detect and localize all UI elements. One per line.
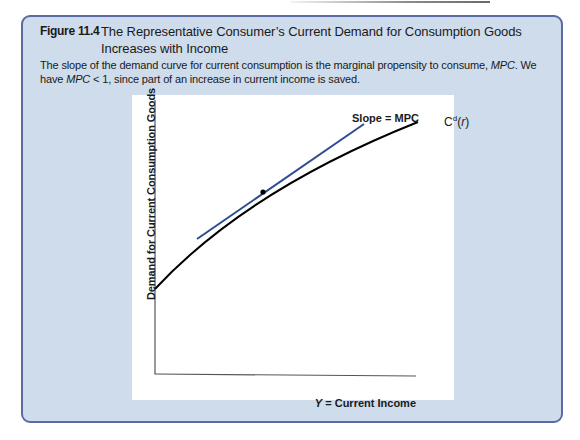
figure-caption: The slope of the demand curve for curren… [40,58,562,86]
curve-label-paren: ) [465,115,469,129]
chart-card: Demand for Current Consumption Goods Slo… [132,95,454,400]
x-axis-line [155,374,417,376]
caption-mpc: MPC [491,59,515,71]
chart-plot [132,95,454,400]
caption-mpc: MPC [66,73,90,85]
top-rule-divider [290,1,490,3]
figure-title: The Representative Consumer’s Current De… [101,23,561,57]
figure-number: Figure 11.4 [40,23,99,40]
slope-label: Slope = MPC [352,112,419,124]
curve-label-base: C [444,115,453,129]
caption-text: The slope of the demand curve for curren… [40,59,491,71]
tangent-line [197,124,364,239]
caption-text: < 1, since part of an increase in curren… [90,73,360,85]
x-axis-label: Y = Current Income [315,397,416,409]
figure-panel: Figure 11.4 The Representative Consumer’… [21,15,563,423]
y-axis-label: Demand for Current Consumption Goods [145,88,157,300]
demand-curve [155,122,418,289]
tangency-point [260,189,265,194]
x-axis-text: = Current Income [322,397,416,409]
curve-label: Cd(r) [444,114,469,129]
